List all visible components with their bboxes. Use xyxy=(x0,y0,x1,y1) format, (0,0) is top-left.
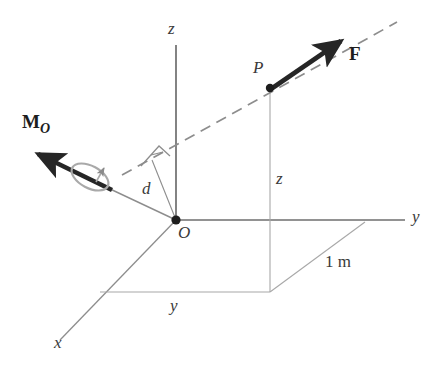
moment-diagram-figure: z y x O P F MO d z y 1 m xyxy=(0,0,435,367)
force-vector-label: F xyxy=(349,44,361,63)
point-p-label: P xyxy=(253,59,263,76)
diagram-canvas xyxy=(0,0,435,367)
z-axis-label: z xyxy=(168,20,175,37)
perpendicular-distance-label: d xyxy=(142,180,151,197)
y-axis-label: y xyxy=(412,208,420,225)
moment-vector-label-main: M xyxy=(22,111,40,132)
x-axis-line xyxy=(60,220,176,340)
moment-vector-label: MO xyxy=(22,112,50,136)
height-dimension-label: z xyxy=(276,170,283,187)
force-vector-arrow xyxy=(271,41,341,89)
origin-label: O xyxy=(178,224,190,241)
horizontal-dimension-label: y xyxy=(170,297,178,314)
point-p-dot xyxy=(266,84,274,92)
x-axis-label: x xyxy=(54,334,62,351)
moment-vector-label-subscript: O xyxy=(40,121,50,136)
unit-length-label: 1 m xyxy=(325,253,351,270)
